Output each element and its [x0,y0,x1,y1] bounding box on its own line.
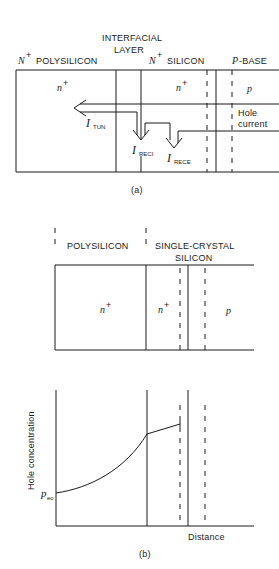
figure-a: INTERFACIAL LAYER N + POLYSILICON N + SI… [16,33,279,195]
single-crystal-label-line1: SINGLE-CRYSTAL [155,241,235,251]
subscript: RECE [174,159,191,165]
plus-superscript: + [63,78,68,88]
doping-label-base: p [246,83,252,94]
doping-label-silicon: n + [158,300,169,315]
i-symbol: I [131,143,137,157]
i-tun-label: I TUN [85,116,105,130]
subscript: eo [47,495,54,501]
emitter-recombination-current-arrow [166,131,279,148]
hole-profile-polysilicon [56,434,147,493]
hole-current-label-line1: Hole [238,108,257,118]
n-plus-silicon-label: N + SILICON [148,50,204,66]
x-axis-label: Distance [188,532,225,542]
plus-superscript: + [164,300,169,310]
p-base-label: P -BASE [231,55,267,66]
doping-label-base: p [225,305,231,316]
caption-a: (a) [131,185,143,195]
subscript: RECI [139,151,154,157]
plus-superscript: + [106,300,111,310]
plus-superscript: + [182,78,187,88]
interfacial-label-line2: LAYER [114,45,144,55]
figure-b: POLYSILICON SINGLE-CRYSTAL SILICON n + n… [26,228,254,559]
silicon-text: SILICON [167,56,204,66]
polysilicon-label: POLYSILICON [67,241,129,251]
i-reci-label: I RECI [131,143,154,157]
doping-label-silicon: n + [176,78,187,93]
n-plus-polysilicon-label: N + POLYSILICON [17,50,98,66]
bipolar-polysilicon-emitter-diagram: INTERFACIAL LAYER N + POLYSILICON N + SI… [0,0,279,569]
n-letter: n [176,82,181,93]
p-letter: p [40,487,47,499]
n-prefix: N [148,55,157,66]
interface-recombination-current-arrow [133,123,170,140]
n-prefix: N [17,55,26,66]
n-letter: n [158,304,163,315]
n-letter: n [100,304,105,315]
doping-label-poly: n + [57,78,68,93]
interfacial-label-line1: INTERFACIAL [102,33,162,43]
hole-profile-single-crystal [147,424,180,434]
plus-superscript: + [26,50,31,60]
subscript: TUN [93,124,105,130]
single-crystal-label-line2: SILICON [175,253,212,263]
doping-label-poly: n + [100,300,111,315]
y-axis-label: Hole concentration [26,411,36,490]
base-text: -BASE [239,56,267,66]
polysilicon-text: POLYSILICON [36,56,98,66]
caption-b: (b) [139,549,151,559]
p-prefix: P [231,55,238,66]
p-eo-label: p eo [40,487,54,501]
i-symbol: I [85,116,91,130]
i-symbol: I [166,151,172,165]
n-letter: n [57,82,62,93]
hole-current-label-line2: current [238,119,268,129]
plus-superscript: + [157,50,162,60]
i-rece-label: I RECE [166,151,191,165]
